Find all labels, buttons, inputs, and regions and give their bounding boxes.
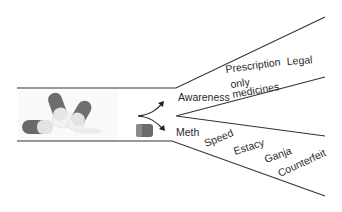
label-estacy: Estacy: [232, 136, 266, 157]
pills-image: [18, 90, 118, 140]
label-prescription: Prescription: [225, 55, 282, 75]
label-awareness: Awareness: [178, 91, 230, 103]
upper-outer-line: [17, 17, 325, 88]
single-capsule-icon: [136, 124, 153, 137]
capsule-icon: [22, 120, 53, 134]
lower-branch-labels: Meth Speed Estacy Ganja Counterfeit: [176, 126, 327, 179]
label-legal: Legal: [286, 53, 312, 67]
drug-pathway-diagram: Awareness Prescription only medicines Le…: [0, 0, 342, 212]
upper-branch-labels: Awareness Prescription only medicines Le…: [178, 53, 313, 103]
label-meth: Meth: [176, 126, 200, 138]
label-speed: Speed: [202, 126, 235, 149]
